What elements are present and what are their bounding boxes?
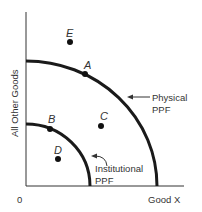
- institutional-ppf-label-line1: Institutional: [95, 163, 143, 174]
- point-d-label: D: [54, 144, 62, 156]
- point-a: [82, 71, 88, 77]
- institutional-ppf-label-line2: PPF: [95, 175, 114, 186]
- point-d: [55, 156, 61, 162]
- point-e: [67, 39, 73, 45]
- ppf-diagram: E A B C D Physical PPF Institutional PPF…: [0, 0, 202, 212]
- point-a-label: A: [83, 59, 91, 71]
- arrow-head-icon: [91, 154, 97, 159]
- point-b-label: B: [48, 113, 55, 125]
- origin-label: 0: [17, 194, 22, 205]
- point-c-label: C: [100, 110, 108, 122]
- arrow-head-icon: [127, 95, 133, 100]
- physical-ppf-label-line1: Physical: [152, 92, 187, 103]
- point-c: [98, 123, 104, 129]
- x-axis-label: Good X: [148, 194, 181, 205]
- point-e-label: E: [66, 27, 74, 39]
- physical-ppf-label-line2: PPF: [152, 104, 171, 115]
- y-axis-label: All Other Goods: [9, 69, 20, 137]
- point-b: [47, 126, 53, 132]
